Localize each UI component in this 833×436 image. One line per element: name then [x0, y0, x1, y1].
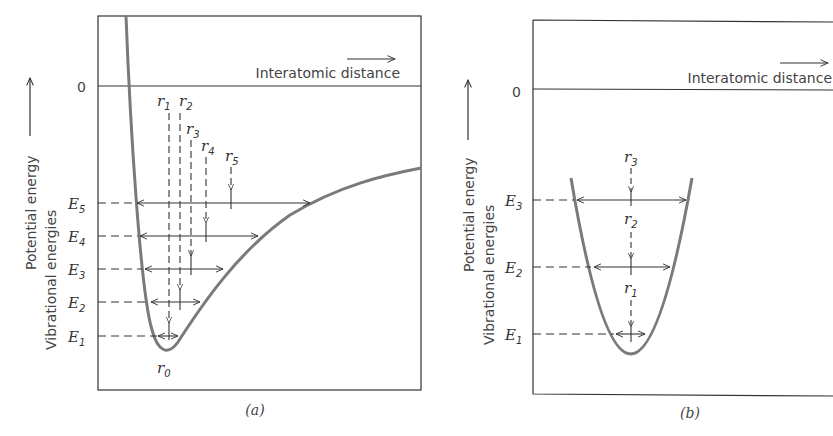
svg-text:E1: E1 [67, 328, 85, 348]
svg-text:E5: E5 [67, 195, 85, 215]
panel-a: 0 Interatomic distance Potential energy … [23, 16, 421, 418]
svg-text:r5: r5 [225, 147, 239, 167]
vibration-amplitude-arrows [137, 203, 310, 336]
zero-label: 0 [512, 84, 521, 100]
svg-text:r1: r1 [157, 92, 171, 112]
svg-text:r3: r3 [624, 148, 638, 168]
svg-text:E2: E2 [67, 294, 85, 314]
y-axis-label-potential: Potential energy [23, 155, 39, 270]
diagram-canvas: 0 Interatomic distance Potential energy … [0, 0, 833, 436]
svg-text:r2: r2 [179, 92, 193, 112]
y-axis-label-potential: Potential energy [461, 157, 477, 272]
energy-level-labels: E3 E2 E1 [504, 192, 522, 346]
panel-a-caption: (a) [245, 402, 264, 418]
svg-text:E2: E2 [504, 259, 522, 279]
x-axis-label: Interatomic distance [688, 70, 833, 86]
energy-level-labels: E5 E4 E3 E2 E1 [67, 195, 85, 348]
y-axis-label-vibrational: Vibrational energies [481, 205, 497, 345]
svg-text:r0: r0 [157, 359, 171, 379]
zero-energy-line [533, 89, 833, 90]
svg-text:E4: E4 [67, 228, 85, 248]
svg-text:r1: r1 [624, 279, 638, 299]
y-axis-label-vibrational: Vibrational energies [43, 210, 59, 350]
svg-text:r2: r2 [624, 210, 638, 230]
svg-text:E1: E1 [504, 326, 522, 346]
svg-text:r3: r3 [186, 120, 200, 140]
x-axis-label: Interatomic distance [256, 65, 401, 81]
svg-text:E3: E3 [67, 261, 85, 281]
zero-label: 0 [77, 79, 86, 95]
svg-text:r4: r4 [201, 137, 215, 157]
panel-b: 0 Interatomic distance Potential energy … [461, 20, 833, 421]
position-markers [169, 113, 231, 340]
panel-b-caption: (b) [680, 405, 700, 421]
svg-text:E3: E3 [504, 192, 522, 212]
